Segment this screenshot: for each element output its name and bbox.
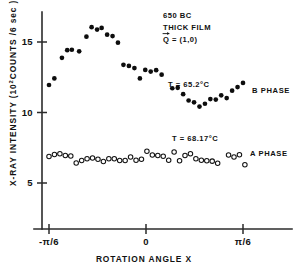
data-point bbox=[177, 158, 182, 163]
data-point bbox=[89, 25, 94, 30]
data-series-b-phase bbox=[47, 25, 246, 109]
data-point bbox=[65, 48, 70, 53]
data-point bbox=[143, 68, 148, 73]
data-point bbox=[159, 72, 164, 77]
annotation-sample-type: THICK FILM bbox=[163, 23, 211, 32]
data-point bbox=[226, 153, 231, 158]
series-label-b-phase: B PHASE bbox=[252, 86, 290, 95]
data-point bbox=[219, 93, 224, 98]
data-point bbox=[132, 66, 137, 71]
data-point bbox=[186, 98, 191, 103]
data-point bbox=[127, 64, 132, 69]
data-point bbox=[213, 97, 218, 102]
data-point bbox=[208, 97, 213, 102]
data-point bbox=[112, 157, 117, 162]
data-point bbox=[166, 158, 171, 163]
scattering-vector-value: = (1,0) bbox=[172, 35, 198, 44]
y-axis-title: X-RAY INTENSITY (102COUNTS /6 sec ) bbox=[8, 0, 18, 186]
data-point bbox=[58, 151, 63, 156]
data-point bbox=[175, 85, 180, 90]
data-point bbox=[172, 150, 177, 155]
x-axis-tick-labels: -π/60π/6 bbox=[39, 236, 251, 247]
data-point bbox=[107, 157, 112, 162]
data-point bbox=[150, 153, 155, 158]
data-point bbox=[183, 153, 188, 158]
data-point bbox=[52, 76, 57, 81]
x-axis-title: ROTATION ANGLE X bbox=[96, 254, 192, 264]
data-point bbox=[123, 158, 128, 163]
data-point bbox=[134, 158, 139, 163]
data-point bbox=[85, 157, 90, 162]
annotation-temperature-a-phase: T = 68.17°C bbox=[172, 134, 218, 143]
data-point bbox=[192, 100, 197, 105]
data-point bbox=[145, 149, 150, 154]
data-point bbox=[117, 158, 122, 163]
data-point bbox=[194, 157, 199, 162]
data-point bbox=[79, 158, 84, 163]
scattering-vector-symbol: Q bbox=[163, 35, 169, 44]
data-point bbox=[60, 55, 65, 60]
data-point bbox=[138, 76, 143, 81]
data-point bbox=[232, 155, 237, 160]
data-point bbox=[110, 34, 115, 39]
svg-text:Q= (1,0): Q= (1,0) bbox=[163, 35, 198, 44]
data-point bbox=[47, 154, 52, 159]
data-point bbox=[203, 101, 208, 106]
axes-group bbox=[34, 12, 292, 234]
chart-canvas: 51015 -π/60π/6 X-RAY INTENSITY (102COUNT… bbox=[0, 0, 299, 271]
data-point bbox=[74, 161, 79, 166]
x-axis-tick-label: π/6 bbox=[235, 236, 251, 247]
annotation-block-sample: 650 BC THICK FILM Q= (1,0) bbox=[163, 11, 211, 44]
data-point bbox=[154, 68, 159, 73]
data-point bbox=[99, 26, 104, 31]
y-axis-tick-label: 15 bbox=[22, 36, 34, 47]
y-axis-tick-label: 5 bbox=[27, 177, 33, 188]
data-point bbox=[121, 62, 126, 67]
data-point bbox=[105, 32, 110, 37]
svg-text:X-RAY INTENSITY (102COUNTS /6: X-RAY INTENSITY (102COUNTS /6 sec ) bbox=[8, 0, 18, 186]
data-point bbox=[241, 81, 246, 86]
data-point bbox=[77, 49, 82, 54]
data-point bbox=[95, 27, 100, 32]
y-axis-title-suffix: COUNTS /6 sec ) bbox=[8, 0, 18, 79]
data-point bbox=[224, 96, 229, 101]
data-point bbox=[215, 161, 220, 166]
data-series-a-phase bbox=[47, 149, 247, 167]
annotation-scattering-vector: Q= (1,0) bbox=[163, 32, 198, 44]
data-point bbox=[148, 69, 153, 74]
y-axis-tick-labels: 51015 bbox=[22, 36, 34, 188]
data-point bbox=[63, 153, 68, 158]
annotation-sample-id: 650 BC bbox=[163, 11, 192, 20]
x-axis-tick-label: 0 bbox=[143, 236, 149, 247]
data-point bbox=[101, 159, 106, 164]
data-point bbox=[210, 159, 215, 164]
y-axis-title-prefix: X-RAY INTENSITY (10 bbox=[8, 83, 18, 186]
data-point bbox=[199, 158, 204, 163]
data-point bbox=[197, 104, 202, 109]
data-point bbox=[170, 86, 175, 91]
data-point bbox=[205, 158, 210, 163]
data-point bbox=[161, 154, 166, 159]
data-point bbox=[96, 157, 101, 162]
data-point bbox=[237, 153, 242, 158]
data-point bbox=[181, 92, 186, 97]
data-point bbox=[188, 151, 193, 156]
figure-root: 51015 -π/60π/6 X-RAY INTENSITY (102COUNT… bbox=[0, 0, 299, 271]
data-point bbox=[243, 162, 248, 167]
x-axis-tick-label: -π/6 bbox=[39, 236, 59, 247]
data-point bbox=[116, 40, 121, 45]
y-axis-tick-label: 10 bbox=[22, 107, 33, 118]
data-point bbox=[90, 156, 95, 161]
data-point bbox=[69, 47, 74, 52]
data-point bbox=[230, 88, 235, 93]
data-point bbox=[128, 155, 133, 160]
data-point bbox=[156, 153, 161, 158]
data-point bbox=[235, 85, 240, 90]
data-point bbox=[139, 157, 144, 162]
data-point bbox=[84, 34, 89, 39]
data-point bbox=[52, 152, 57, 157]
data-point bbox=[47, 83, 52, 88]
series-label-a-phase: A PHASE bbox=[250, 149, 288, 158]
data-point bbox=[69, 154, 74, 159]
